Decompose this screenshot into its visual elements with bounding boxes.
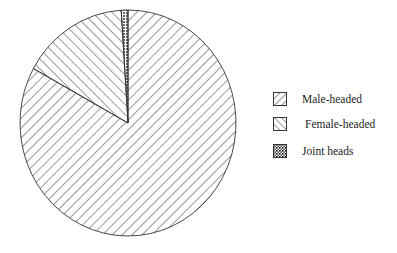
dotted-swatch-icon: [273, 144, 287, 158]
legend-label: Joint heads: [302, 145, 353, 157]
hatch-backward-swatch-icon: [273, 117, 287, 131]
legend-item-female-headed: Female-headed: [273, 116, 375, 132]
legend-item-joint-heads: Joint heads: [273, 143, 353, 159]
hatch-forward-swatch-icon: [273, 92, 287, 106]
pie-slices: [20, 10, 236, 236]
legend-label: Male-headed: [302, 93, 362, 105]
legend-label: Female-headed: [305, 118, 375, 130]
legend-item-male-headed: Male-headed: [273, 91, 362, 107]
